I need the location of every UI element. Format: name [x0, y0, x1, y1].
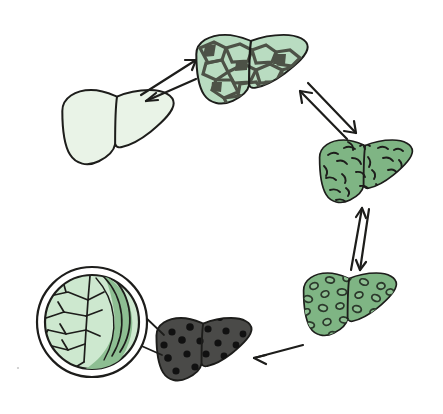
- arrow-shaft-up: [141, 60, 196, 95]
- connector-cirrhotic-to-endstage: [254, 345, 303, 364]
- stage-cirrhotic-liver: [301, 262, 396, 342]
- stage-fatty-liver: [196, 35, 307, 110]
- magnified-inset: [37, 267, 147, 377]
- end-stage-liver-body: [156, 318, 251, 380]
- stage-end-stage-liver: [156, 313, 251, 387]
- arrow-shaft-down2: [360, 209, 369, 270]
- scan-speck: [17, 367, 19, 369]
- stage-inflamed-liver: [320, 140, 413, 204]
- diagram-canvas: [0, 0, 443, 414]
- arrow-head-left: [254, 355, 266, 364]
- connector-inflamed-to-cirrhotic: [351, 208, 369, 270]
- connector-fatty-to-inflamed: [300, 83, 356, 139]
- liver-progression-diagram: Liver Disease Progression Cycle Healthy …: [0, 0, 443, 414]
